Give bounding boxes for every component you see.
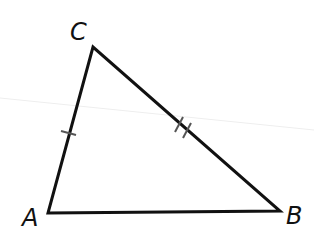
triangle-abc [48, 47, 280, 213]
vertex-label-a: A [20, 204, 38, 232]
vertex-label-c: C [70, 18, 87, 46]
triangle-diagram: C A B [0, 0, 314, 244]
vertex-label-b: B [286, 202, 302, 230]
